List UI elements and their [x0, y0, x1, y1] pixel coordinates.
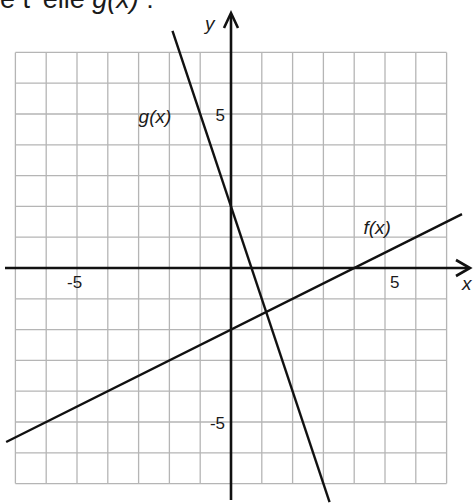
series-line-g [172, 31, 329, 502]
function-graph: xy-555-5f(x)g(x) [0, 0, 474, 504]
function-lines [6, 31, 462, 502]
series-line-f [6, 214, 462, 442]
x-tick-label: -5 [67, 273, 82, 292]
y-axis-label: y [203, 13, 216, 34]
labels: xy-555-5f(x)g(x) [67, 13, 473, 433]
x-axis-label: x [461, 273, 473, 294]
series-label-g: g(x) [139, 106, 172, 127]
y-tick-label: 5 [216, 106, 225, 125]
axes [5, 13, 470, 500]
x-tick-label: 5 [390, 273, 399, 292]
series-label-f: f(x) [363, 217, 390, 238]
y-tick-label: -5 [210, 414, 225, 433]
